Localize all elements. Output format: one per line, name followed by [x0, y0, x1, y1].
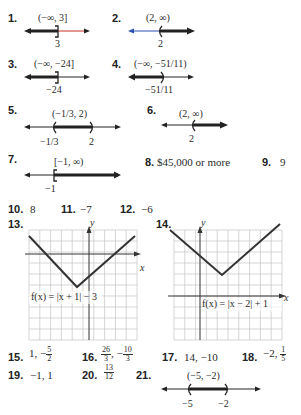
interval-text: (2, ∞)	[146, 12, 170, 23]
answer-number: 3.	[8, 58, 17, 70]
answer-number: 18.	[242, 351, 257, 363]
interval-text: (2, ∞)	[179, 108, 203, 119]
answer-number: 5.	[8, 104, 17, 116]
answer-number: 14.	[156, 218, 171, 230]
answer-value: −6	[141, 203, 153, 215]
answer-number: 8.	[145, 156, 154, 168]
answer-value: 263, −103	[101, 346, 133, 363]
value-text: 1, −	[29, 347, 46, 359]
y-axis-label: y	[90, 217, 94, 228]
denominator: 2	[47, 355, 51, 363]
answer-number: 2.	[112, 12, 121, 24]
graph-14	[174, 230, 282, 340]
function-label: f(x) = |x + 1| − 3	[31, 291, 97, 302]
tick-label: −5	[182, 398, 193, 409]
denominator: 12	[105, 373, 113, 381]
denominator: 3	[104, 355, 108, 363]
number-line-21	[161, 384, 261, 396]
answer-number: 15.	[8, 351, 23, 363]
answer-value: 1312	[104, 364, 114, 381]
number-line-3	[24, 72, 92, 84]
answer-number: 13.	[8, 218, 23, 230]
fraction: 1312	[104, 364, 114, 381]
answer-value: $45,000 or more	[157, 156, 230, 168]
answer-number: 17.	[162, 351, 177, 363]
interval-text: (−5, −2)	[187, 370, 220, 381]
number-line-1	[24, 26, 92, 38]
number-line-6	[161, 120, 229, 132]
graph-13	[29, 230, 137, 340]
answer-value: −7	[80, 203, 92, 215]
answer-number: 21.	[136, 369, 151, 381]
answer-number: 20.	[82, 369, 97, 381]
tick-label: 2	[89, 136, 94, 147]
value-text: −2,	[263, 347, 280, 359]
interval-text: (−∞, −51/11)	[134, 58, 186, 69]
number-line-5	[24, 122, 122, 134]
answer-number: 16.	[82, 351, 97, 363]
answer-value: 14, −10	[184, 351, 218, 363]
answer-value: 1, −52	[29, 346, 52, 363]
denominator: 5	[281, 355, 285, 363]
y-axis-label: y	[201, 217, 205, 228]
fraction: 263	[101, 346, 111, 363]
interval-text: [−1, ∞)	[54, 156, 83, 167]
tick-label: 2	[158, 38, 163, 49]
separator: , −	[111, 347, 123, 359]
tick-label: −24	[46, 84, 62, 95]
fraction: 103	[123, 346, 133, 363]
fraction: 15	[280, 346, 286, 363]
number-line-2	[128, 26, 196, 38]
x-axis-label: x	[284, 292, 288, 303]
answer-number: 12.	[120, 203, 135, 215]
number-line-7	[24, 170, 122, 182]
tick-label: −2	[218, 398, 229, 409]
answer-number: 9.	[262, 156, 271, 168]
denominator: 3	[126, 355, 130, 363]
tick-label: 2	[189, 133, 194, 144]
function-label: f(x) = |x − 2| + 1	[202, 298, 268, 309]
x-axis-label: x	[140, 262, 144, 273]
answer-value: 8	[30, 203, 36, 215]
tick-label: 3	[55, 38, 60, 49]
answer-value: −1, 1	[30, 369, 53, 381]
interval-text: (−∞, −24]	[34, 58, 74, 69]
answer-number: 7.	[8, 153, 17, 165]
interval-text: (−∞, 3]	[38, 12, 67, 23]
interval-text: (−1/3, 2)	[52, 108, 87, 119]
answer-number: 6.	[147, 104, 156, 116]
answer-number: 11.	[61, 203, 76, 215]
tick-label: −1/3	[40, 136, 58, 147]
fraction: 52	[46, 346, 52, 363]
answer-number: 19.	[8, 369, 23, 381]
answer-number: 4.	[112, 58, 121, 70]
answer-number: 10.	[8, 203, 23, 215]
tick-label: −51/11	[145, 84, 173, 95]
number-line-4	[128, 72, 196, 84]
answer-number: 1.	[8, 12, 17, 24]
answer-value: 9	[280, 156, 286, 168]
answer-value: −2, 15	[263, 346, 286, 363]
tick-label: −1	[45, 183, 56, 194]
